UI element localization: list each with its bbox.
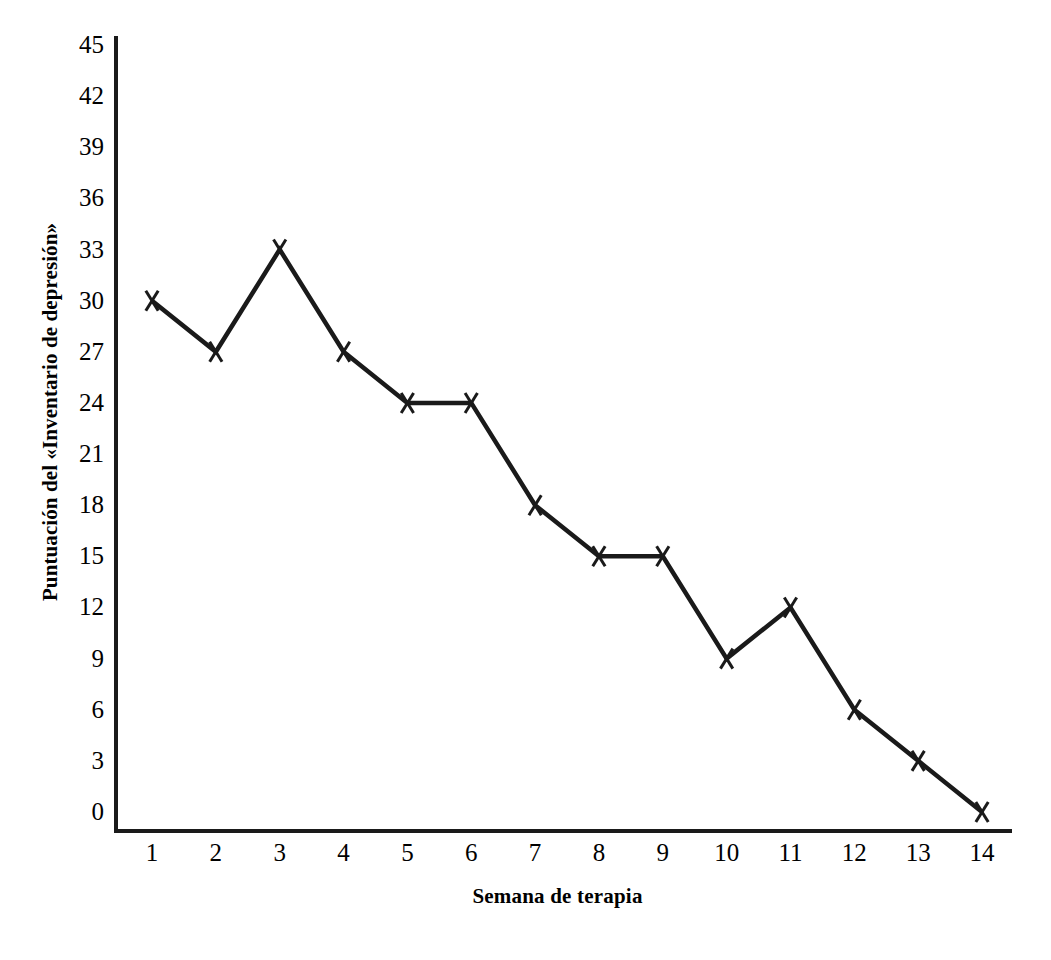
- x-axis-tick-label: 2: [191, 840, 241, 866]
- x-marker: [912, 751, 924, 771]
- x-axis-tick-label: 13: [893, 840, 943, 866]
- data-line: [152, 250, 982, 812]
- x-axis-tick-label: 7: [510, 840, 560, 866]
- x-marker: [529, 495, 541, 515]
- x-axis-tick-label: 11: [766, 840, 816, 866]
- x-marker: [720, 649, 732, 669]
- x-axis-title: Semana de terapia: [115, 884, 1000, 909]
- x-marker: [976, 802, 988, 822]
- plot-area: [0, 0, 1051, 960]
- x-axis-tick-label: 5: [382, 840, 432, 866]
- x-axis-tick-label: 14: [957, 840, 1007, 866]
- x-axis-tick-label: 10: [702, 840, 752, 866]
- x-axis-tick-label: 4: [319, 840, 369, 866]
- x-marker: [210, 342, 222, 362]
- x-axis-tick-label: 12: [829, 840, 879, 866]
- x-marker: [146, 291, 158, 311]
- x-marker: [337, 342, 349, 362]
- x-axis-tick-label: 9: [638, 840, 688, 866]
- x-marker: [274, 240, 286, 260]
- depression-score-line-chart: Puntuación del «Inventario de depresión»…: [0, 0, 1051, 960]
- x-axis-tick-label: 3: [255, 840, 305, 866]
- axis-lines: [114, 36, 1012, 831]
- x-axis-tick-label: 1: [127, 840, 177, 866]
- x-marker: [848, 700, 860, 720]
- x-axis-tick-label: 8: [574, 840, 624, 866]
- x-marker: [784, 597, 796, 617]
- x-axis-tick-label: 6: [446, 840, 496, 866]
